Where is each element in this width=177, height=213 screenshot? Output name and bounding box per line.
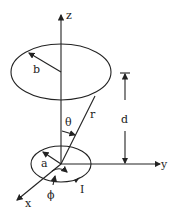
z-axis-label: z <box>66 9 72 22</box>
phi-pointer <box>53 176 55 185</box>
phi-label: ϕ <box>47 189 55 202</box>
y-axis-label: y <box>160 158 168 171</box>
d-label: d <box>121 113 128 126</box>
current-I-label: I <box>80 183 84 196</box>
r-label: r <box>90 108 96 121</box>
theta-arc <box>62 131 75 135</box>
r-line <box>61 96 95 164</box>
phi-arc <box>52 169 67 172</box>
radius-a-label: a <box>41 157 48 170</box>
loops-geometry-diagram: z b r θ d a y x ϕ I <box>0 0 177 213</box>
x-axis-label: x <box>25 197 32 210</box>
theta-label: θ <box>65 116 72 129</box>
radius-b-label: b <box>33 63 40 76</box>
